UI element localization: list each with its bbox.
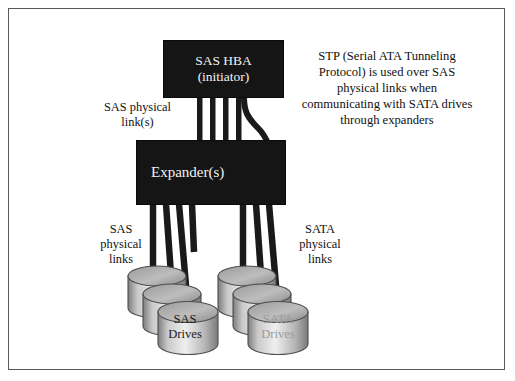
stp-note-text: STP (Serial ATA Tunneling Protocol) is u… xyxy=(298,48,476,129)
label-sata-physical-links: SATA physical links xyxy=(284,222,356,267)
sas-hba-block[interactable]: SAS HBA (initiator) xyxy=(163,40,284,98)
sas-hba-line1: SAS HBA xyxy=(195,53,252,69)
expander-block[interactable]: Expander(s) xyxy=(136,140,286,205)
sas-hba-line2: (initiator) xyxy=(198,69,250,85)
label-sas-physical-links: SAS physical links xyxy=(88,222,154,267)
figure-canvas: SAS HBA (initiator) Expander(s) SAS phys… xyxy=(0,0,515,381)
label-sas-physical-link: SAS physical link(s) xyxy=(90,100,185,130)
expander-label: Expander(s) xyxy=(151,164,224,182)
